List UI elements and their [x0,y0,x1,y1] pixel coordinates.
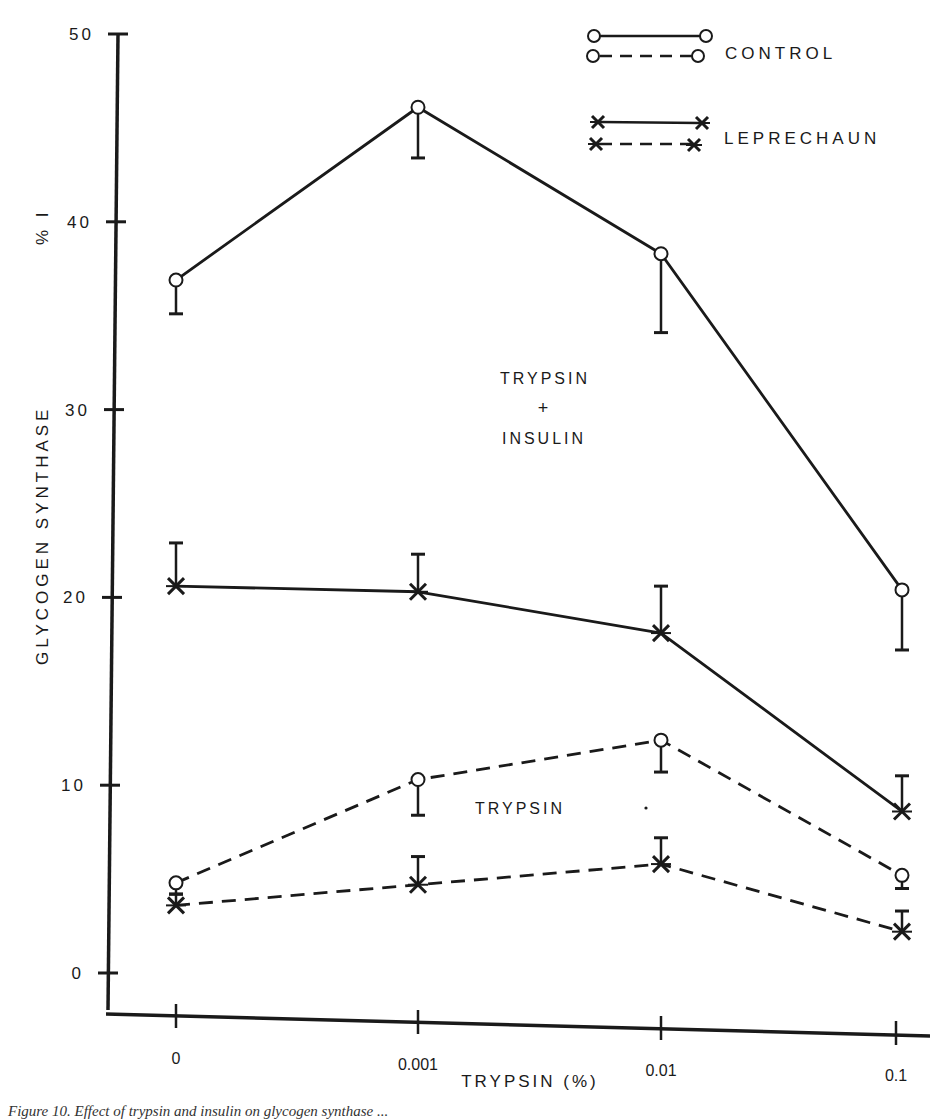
open-circle-marker-icon [655,247,668,260]
series-leprechaun-trypsin [166,838,912,940]
svg-text:+: + [538,398,549,418]
chart-canvas: 01020304050 00.0010.010.1 GLYCOGEN SYNTH… [0,0,948,1119]
open-circle-marker-icon [170,274,183,287]
y-tick-label: 40 [67,213,92,232]
open-circle-marker-icon [587,50,599,62]
annotation-trypsin-insulin: TRYPSIN + INSULIN [500,370,590,447]
open-circle-marker-icon [412,773,425,786]
x-tick-label: 0.01 [645,1062,676,1079]
y-tick-label: 50 [69,25,94,44]
x-tick-label: 0 [172,1050,181,1067]
x-axis-label: TRYPSIN (%) [461,1072,599,1091]
svg-text:% I: % I [33,208,52,245]
open-circle-marker-icon [588,30,600,42]
stray-dot [644,806,647,809]
svg-text:CONTROL: CONTROL [725,44,836,63]
figure-caption: Figure 10. Effect of trypsin and insulin… [8,1103,388,1119]
y-tick-label: 10 [61,776,86,795]
x-marker-icon [694,117,710,129]
legend: CONTROL LEPRECHAUN [587,30,880,151]
y-axis-label: GLYCOGEN SYNTHASE % I [33,208,52,665]
svg-text:GLYCOGEN SYNTHASE: GLYCOGEN SYNTHASE [33,406,52,665]
annotation-trypsin: TRYPSIN [475,800,565,817]
open-circle-marker-icon [692,50,704,62]
y-tick-label: 0 [72,964,84,983]
open-circle-marker-icon [700,30,712,42]
x-tick-label: 0.001 [398,1056,438,1073]
series-leprechaun-trypsin-insulin [166,543,912,820]
svg-text:TRYPSIN: TRYPSIN [500,370,590,387]
open-circle-marker-icon [412,101,425,114]
legend-control: CONTROL [587,30,836,63]
y-tick-label: 20 [63,588,88,607]
open-circle-marker-icon [896,869,909,882]
x-marker-icon [686,139,702,151]
y-axis: 01020304050 [61,25,128,1010]
open-circle-marker-icon [655,734,668,747]
open-circle-marker-icon [896,583,909,596]
svg-text:LEPRECHAUN: LEPRECHAUN [724,129,880,148]
legend-leprechaun: LEPRECHAUN [588,116,880,151]
svg-text:INSULIN: INSULIN [502,430,586,447]
x-tick-label: 0.1 [885,1067,907,1084]
open-circle-marker-icon [170,876,183,889]
y-tick-label: 30 [65,401,90,420]
x-marker-icon [588,138,604,150]
x-marker-icon [590,116,606,128]
